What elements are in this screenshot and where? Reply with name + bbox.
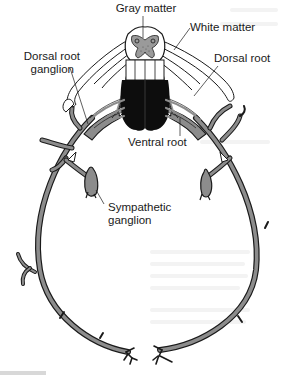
label-sympathetic-ganglion-line1: Sympathetic (108, 201, 171, 214)
label-gray-matter: Gray matter (106, 2, 186, 15)
label-white-matter: White matter (190, 21, 255, 34)
left-spinal-nerve (38, 118, 128, 352)
right-spinal-nerve (160, 118, 257, 350)
label-sympathetic-ganglion-line2: ganglion (108, 214, 151, 227)
left-sympathetic-ganglion (85, 167, 98, 198)
label-dorsal-root: Dorsal root (214, 52, 270, 65)
leader-white-matter (174, 28, 190, 50)
label-dorsal-root-ganglion-line2: ganglion (4, 63, 74, 76)
label-dorsal-root-ganglion-line1: Dorsal root (4, 50, 80, 63)
spinal-cord (121, 27, 170, 131)
label-ventral-root: Ventral root (128, 136, 187, 149)
page-edge-bar (0, 371, 46, 375)
leader-sympathetic-ganglion (96, 190, 104, 204)
